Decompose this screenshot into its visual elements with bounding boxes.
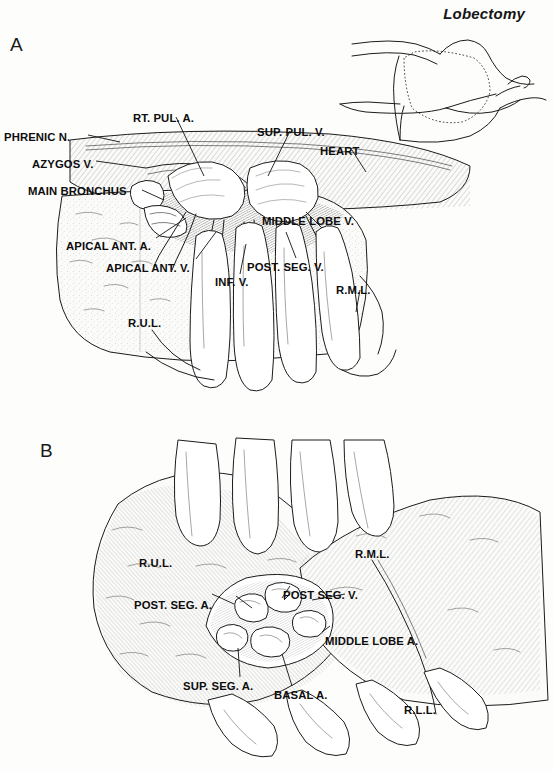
anatomy-label: POST. SEG. A.: [134, 600, 212, 611]
anatomy-label: INF. V.: [215, 277, 249, 288]
anatomy-label: SUP. PUL. V.: [257, 127, 325, 138]
anatomy-label: HEART: [320, 146, 359, 157]
anatomy-label: POST SEG. V.: [283, 590, 358, 601]
anatomy-label: APICAL ANT. A.: [66, 241, 151, 252]
illustration-page: Lobectomy A B: [0, 0, 553, 771]
anatomy-label: POST. SEG. V.: [247, 262, 324, 273]
inset-patient-position-drawing: [340, 40, 546, 142]
anatomy-label: R.U.L.: [128, 318, 161, 329]
anatomy-label: R.M.L.: [336, 285, 371, 296]
panel-a-illustration: [55, 117, 480, 391]
anatomy-label: BASAL A.: [274, 690, 328, 701]
anatomy-label: RT. PUL. A.: [133, 113, 194, 124]
anatomy-label: R.U.L.: [139, 558, 172, 569]
anatomy-label: R.M.L.: [355, 549, 390, 560]
anatomy-label: SUP. SEG. A.: [183, 681, 253, 692]
anatomy-label: R.L.L.: [404, 705, 436, 716]
figure-artwork: [0, 0, 553, 771]
anatomy-label: PHRENIC N.: [4, 132, 70, 143]
anatomy-label: MAIN BRONCHUS: [28, 186, 127, 197]
anatomy-label: MIDDLE LOBE V.: [262, 216, 354, 227]
anatomy-label: APICAL ANT. V.: [106, 263, 190, 274]
anatomy-label: AZYGOS V.: [32, 159, 93, 170]
anatomy-label: MIDDLE LOBE A.: [325, 636, 418, 647]
